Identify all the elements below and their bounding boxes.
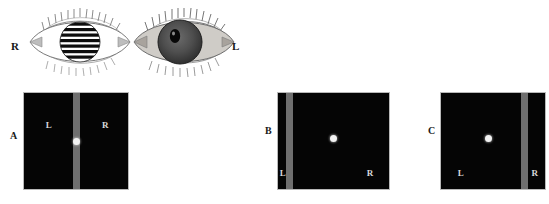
stimulus-panel-a: L R [23,92,129,190]
right-eye-icon [22,6,138,78]
stimulus-panel-b: L R [277,92,390,190]
panel-a-right-label: R [102,121,109,130]
panel-a-letter: A [10,131,17,141]
panel-c-right-label: R [531,169,538,178]
panel-c-letter: C [428,126,435,136]
panel-b-fixation-dot [330,135,337,142]
left-eye-icon [128,6,244,78]
panel-b-letter: B [265,126,272,136]
right-eye-side-label: R [11,41,19,52]
left-eye-side-label: L [232,41,239,52]
panel-b-left-label: L [280,169,286,178]
stimulus-panel-c: L R [440,92,546,190]
panel-b-right-label: R [367,169,374,178]
panel-c-left-label: L [458,169,464,178]
panel-a-fixation-dot [73,138,80,145]
eye-illustration-row: R [0,0,280,90]
panel-c-fixation-dot [485,135,492,142]
panel-c-gray-bar [521,93,528,189]
panel-b-gray-bar [286,93,293,189]
panel-a-left-label: L [46,121,52,130]
figure-canvas: R [0,0,549,204]
